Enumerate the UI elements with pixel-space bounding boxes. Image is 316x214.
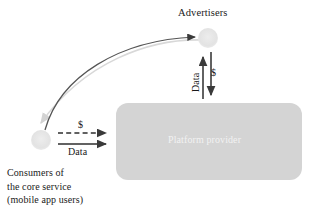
diagram-canvas: Advertisers Platform provider Consumers … (0, 0, 316, 214)
edge-label-data-horizontal: Data (68, 146, 87, 159)
edge-label-money-vertical: $ (211, 67, 216, 80)
node-consumers-label-line1: Consumers of (7, 166, 83, 180)
edge-label-money-horizontal: $ (78, 119, 83, 132)
node-advertisers-label: Advertisers (178, 6, 228, 19)
platform-provider-label: Platform provider (168, 134, 241, 147)
node-consumers-label-line3: (mobile app users) (7, 193, 83, 207)
node-advertisers-circle (198, 28, 218, 48)
node-consumers-label-line2: the core service (7, 180, 83, 194)
node-consumers-label: Consumers of the core service (mobile ap… (7, 166, 83, 207)
node-consumers-circle (31, 130, 51, 150)
edge-label-data-vertical: Data (190, 73, 203, 92)
